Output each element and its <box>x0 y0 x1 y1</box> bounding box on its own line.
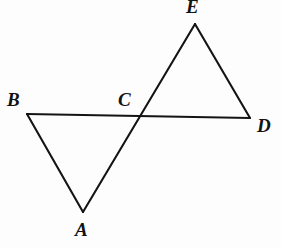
figure-canvas <box>0 0 281 248</box>
geometry-figure: B C D E A <box>0 0 281 248</box>
segment-AE <box>83 24 195 212</box>
vertex-label-e: E <box>186 0 199 16</box>
vertex-label-a: A <box>75 220 88 239</box>
vertex-label-b: B <box>7 90 20 109</box>
vertex-label-c: C <box>118 90 131 109</box>
segment-BA <box>27 114 83 212</box>
segment-ED <box>195 24 250 118</box>
vertex-label-d: D <box>257 116 271 135</box>
